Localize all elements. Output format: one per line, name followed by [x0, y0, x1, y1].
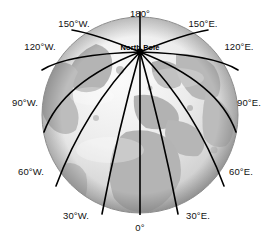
longitude-label-60e: 60°E.: [229, 167, 253, 177]
longitude-label-150w: 150°W.: [58, 19, 89, 29]
longitude-label-90w: 90°W.: [12, 98, 38, 108]
longitude-label-60w: 60°W.: [18, 167, 44, 177]
longitude-label-120e: 120°E.: [224, 42, 253, 52]
globe-illustration: [0, 0, 274, 239]
longitude-label-120w: 120°W.: [24, 42, 55, 52]
longitude-label-30e: 30°E.: [186, 211, 210, 221]
longitude-label-30w: 30°W.: [63, 211, 89, 221]
longitude-label-0: 0°: [135, 223, 144, 233]
longitude-label-90e: 90°E.: [237, 98, 261, 108]
longitude-label-180: 180°: [130, 9, 150, 19]
north-pole-label: North Pole: [121, 44, 160, 52]
longitude-label-150e: 150°E.: [188, 19, 217, 29]
globe-meridian-figure: North Pole 180° 150°W. 120°W. 90°W. 60°W…: [0, 0, 274, 239]
